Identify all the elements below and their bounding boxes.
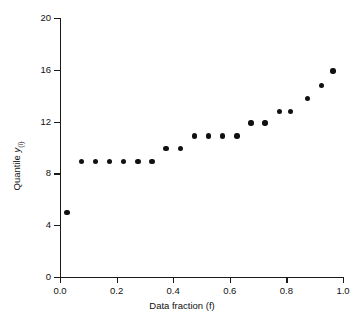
y-tick-20 — [54, 18, 60, 19]
data-point — [93, 159, 98, 164]
data-point — [305, 96, 310, 101]
data-point — [107, 159, 112, 164]
x-tick-0.6 — [230, 277, 231, 283]
data-point — [277, 109, 282, 114]
x-tick-0.2 — [117, 277, 118, 283]
y-axis-title-text: Quantile — [11, 155, 22, 190]
x-tick-label-0.2: 0.2 — [110, 286, 123, 296]
x-tick-0.8 — [286, 277, 287, 283]
y-tick-label-4: 4 — [46, 220, 51, 230]
y-tick-12 — [54, 122, 60, 123]
x-tick-label-0.6: 0.6 — [223, 286, 236, 296]
x-axis-line — [60, 277, 343, 278]
y-axis-title: Quantile y(i) — [11, 0, 33, 332]
data-point — [220, 133, 225, 138]
data-point — [234, 133, 239, 138]
data-point — [163, 146, 168, 151]
y-tick-8 — [54, 173, 60, 174]
x-tick-0.4 — [173, 277, 174, 283]
x-tick-label-0.8: 0.8 — [280, 286, 293, 296]
y-tick-label-0: 0 — [46, 272, 51, 282]
data-point — [206, 133, 211, 138]
data-point — [262, 120, 267, 125]
data-point — [178, 146, 183, 151]
x-tick-label-0.4: 0.4 — [167, 286, 180, 296]
data-point — [288, 109, 293, 114]
x-tick-label-0.0: 0.0 — [53, 286, 66, 296]
y-tick-label-12: 12 — [40, 117, 51, 127]
y-tick-16 — [54, 70, 60, 71]
data-point — [121, 159, 126, 164]
y-axis-title-symbol: y(i) — [11, 142, 22, 153]
data-point — [319, 83, 324, 88]
x-tick-0.0 — [60, 277, 61, 283]
x-tick-1.0 — [343, 277, 344, 283]
data-point — [149, 159, 154, 164]
plot-area: 048121620 0.00.20.40.60.81.0 — [60, 18, 343, 277]
data-point — [135, 159, 140, 164]
x-axis-title: Data fraction (f) — [0, 300, 364, 311]
y-tick-label-16: 16 — [40, 65, 51, 75]
quantile-plot-figure: 048121620 0.00.20.40.60.81.0 Quantile y(… — [0, 0, 364, 332]
y-tick-label-20: 20 — [40, 13, 51, 23]
data-point — [192, 133, 197, 138]
data-point — [64, 210, 69, 215]
y-tick-label-8: 8 — [46, 169, 51, 179]
data-point — [248, 120, 253, 125]
data-point — [79, 159, 84, 164]
y-tick-4 — [54, 225, 60, 226]
y-axis-line — [60, 18, 61, 277]
x-tick-label-1.0: 1.0 — [336, 286, 349, 296]
data-point — [330, 68, 335, 73]
